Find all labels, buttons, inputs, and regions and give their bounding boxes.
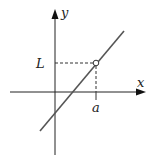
y-axis-label: y bbox=[60, 5, 69, 20]
hole-marker bbox=[93, 60, 99, 66]
point-label: a bbox=[92, 100, 100, 115]
limit-label: L bbox=[35, 56, 45, 71]
function-line bbox=[40, 31, 124, 131]
limit-diagram: y x L a bbox=[0, 0, 157, 160]
x-axis-label: x bbox=[137, 75, 145, 90]
y-axis-arrow-icon bbox=[52, 9, 59, 19]
